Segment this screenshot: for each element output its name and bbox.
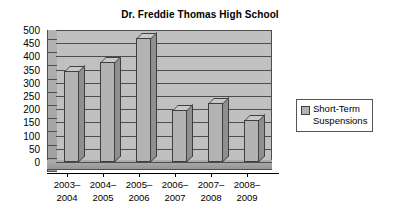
y-axis-tick-label: 350 bbox=[23, 64, 40, 75]
y-axis-tick-label: 100 bbox=[23, 130, 40, 141]
legend-swatch-icon bbox=[301, 106, 310, 115]
y-axis-tick bbox=[47, 171, 57, 172]
bar bbox=[244, 120, 259, 162]
plot-area bbox=[47, 30, 272, 170]
bar-front-face bbox=[100, 62, 115, 162]
x-axis-tick-label: 2007–2008 bbox=[198, 178, 224, 204]
y-axis-tick-label: 500 bbox=[23, 25, 40, 36]
x-axis-tick-label-line-1: 2006– bbox=[162, 178, 188, 191]
y-axis-tick-label: 150 bbox=[23, 117, 40, 128]
x-axis-tick-label-line-1: 2007– bbox=[198, 178, 224, 191]
x-axis-tick-label-line-1: 2005– bbox=[126, 178, 152, 191]
x-axis-tick-label-line-1: 2004– bbox=[90, 178, 116, 191]
x-axis-tick bbox=[103, 173, 104, 177]
y-axis-tick bbox=[47, 131, 57, 132]
x-axis-tick bbox=[211, 173, 212, 177]
y-axis-tick bbox=[47, 65, 57, 66]
bar-front-face bbox=[64, 71, 79, 162]
x-axis-tick-label: 2005–2006 bbox=[126, 178, 152, 204]
y-axis-tick-label: 200 bbox=[23, 104, 40, 115]
bar bbox=[100, 62, 115, 162]
x-axis-tick-label: 2003–2004 bbox=[54, 178, 80, 204]
x-axis-tick-label-line-2: 2006 bbox=[126, 191, 152, 204]
x-axis-tick bbox=[247, 173, 248, 177]
x-axis-tick-label-line-2: 2005 bbox=[90, 191, 116, 204]
chart-title: Dr. Freddie Thomas High School bbox=[0, 9, 400, 20]
bar-side-face bbox=[151, 32, 157, 162]
x-axis-labels: 2003–20042004–20052005–20062006–20072007… bbox=[47, 178, 279, 218]
chart-legend: Short-Term Suspensions bbox=[296, 99, 373, 132]
x-axis-tick-label-line-2: 2004 bbox=[54, 191, 80, 204]
y-axis-tick bbox=[47, 145, 57, 146]
y-axis-tick bbox=[47, 92, 57, 93]
x-axis-tick-label: 2004–2005 bbox=[90, 178, 116, 204]
y-axis-tick-label: 300 bbox=[23, 77, 40, 88]
bar-series-short-term-suspensions bbox=[56, 30, 272, 171]
x-axis-tick-label-line-1: 2003– bbox=[54, 178, 80, 191]
bar-front-face bbox=[136, 38, 151, 162]
bar bbox=[208, 103, 223, 162]
y-axis-tick bbox=[47, 52, 57, 53]
bar-side-face bbox=[187, 104, 193, 162]
y-axis-tick bbox=[47, 39, 57, 40]
legend-label-line-2: Suspensions bbox=[313, 115, 367, 127]
x-axis-tick-label-line-2: 2007 bbox=[162, 191, 188, 204]
bar-side-face bbox=[79, 65, 85, 162]
bar bbox=[172, 110, 187, 162]
x-axis-tick-label-line-1: 2008– bbox=[234, 178, 260, 191]
x-axis-tick bbox=[67, 173, 68, 177]
x-axis-tick bbox=[175, 173, 176, 177]
x-axis-tick-label: 2008–2009 bbox=[234, 178, 260, 204]
x-axis-tick-label-line-2: 2008 bbox=[198, 191, 224, 204]
bar-side-face bbox=[115, 56, 121, 162]
y-axis-tick bbox=[47, 158, 57, 159]
bar-side-face bbox=[259, 114, 265, 162]
legend-label-line-1: Short-Term bbox=[313, 103, 360, 114]
bar bbox=[136, 38, 151, 162]
y-axis-tick-label: 0 bbox=[34, 157, 40, 168]
y-axis-tick-label: 450 bbox=[23, 38, 40, 49]
y-axis-tick bbox=[47, 79, 57, 80]
y-axis-tick-label: 50 bbox=[29, 143, 40, 154]
y-axis-tick-label: 400 bbox=[23, 51, 40, 62]
bar-front-face bbox=[208, 103, 223, 162]
x-axis-line bbox=[47, 173, 279, 174]
y-axis-tick-label: 250 bbox=[23, 91, 40, 102]
legend-label: Short-Term Suspensions bbox=[313, 103, 367, 127]
x-axis-tick-label-line-2: 2009 bbox=[234, 191, 260, 204]
y-axis-tick bbox=[47, 118, 57, 119]
bar bbox=[64, 71, 79, 162]
x-axis-tick bbox=[139, 173, 140, 177]
bar-front-face bbox=[244, 120, 259, 162]
bar-side-face bbox=[223, 97, 229, 162]
y-axis-labels: 500450400350300250200150100500 bbox=[0, 30, 44, 171]
y-axis-tick bbox=[47, 105, 57, 106]
x-axis-tick-label: 2006–2007 bbox=[162, 178, 188, 204]
bar-chart: Dr. Freddie Thomas High School 500450400… bbox=[0, 0, 400, 222]
bar-front-face bbox=[172, 110, 187, 162]
